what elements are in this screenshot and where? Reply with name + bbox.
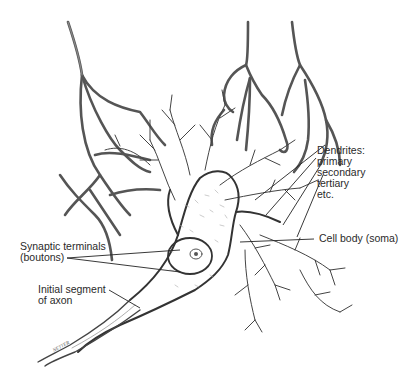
dendrites-etc: etc. [317,189,365,200]
synaptic-terminals-line2: (boutons) [20,252,106,263]
cell-body-label: Cell body (soma) [319,233,398,244]
cell-body-text: Cell body (soma) [319,233,398,244]
axon [38,300,140,366]
presynaptic-fibers-top [212,22,288,152]
dendrites-label: Dendrites: primary secondary tertiary et… [317,145,365,200]
axon-segment-line2: of axon [38,295,106,306]
nucleus [168,238,212,274]
presynaptic-fibers-left [60,22,165,260]
synaptic-terminals-label: Synaptic terminals (boutons) [20,241,106,263]
axon-segment-label: Initial segment of axon [38,284,106,306]
dendritic-tree [105,90,352,332]
